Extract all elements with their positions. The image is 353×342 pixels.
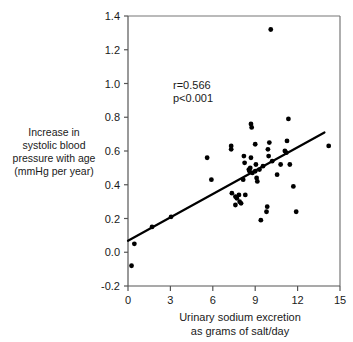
x-axis-title-line-2: as grams of salt/day xyxy=(150,324,330,338)
y-tick-label: 1.2 xyxy=(105,44,120,56)
data-point xyxy=(253,142,258,147)
data-points xyxy=(129,27,331,268)
x-axis-tick-labels: 03691215 xyxy=(125,294,346,306)
data-point xyxy=(229,191,234,196)
data-point xyxy=(257,167,262,172)
data-point xyxy=(253,169,258,174)
data-point xyxy=(255,179,260,184)
data-point xyxy=(243,192,248,197)
y-axis-title-line-1: Increase in xyxy=(2,126,106,139)
data-point xyxy=(265,204,270,209)
data-point xyxy=(233,203,238,208)
x-tick-label: 3 xyxy=(167,294,173,306)
data-point xyxy=(248,165,253,170)
data-point xyxy=(150,225,155,230)
y-axis-title-line-4: (mmHg per year) xyxy=(2,165,106,178)
x-tick-label: 15 xyxy=(334,294,346,306)
x-axis-title-line-1: Urinary sodium excretion xyxy=(150,310,330,324)
x-tick-label: 12 xyxy=(291,294,303,306)
data-point xyxy=(205,155,210,160)
y-tick-label: 0.4 xyxy=(105,179,120,191)
x-tick-label: 6 xyxy=(210,294,216,306)
correlation-annotation: r=0.566 xyxy=(173,79,211,91)
data-point xyxy=(254,162,259,167)
data-point xyxy=(242,160,247,165)
y-tick-label: 0.8 xyxy=(105,111,120,123)
data-point xyxy=(287,162,292,167)
data-point xyxy=(291,184,296,189)
pvalue-annotation: p<0.001 xyxy=(173,92,213,104)
data-point xyxy=(264,209,269,214)
data-point xyxy=(285,138,290,143)
data-point xyxy=(241,177,246,182)
x-axis-title: Urinary sodium excretion as grams of sal… xyxy=(150,310,330,338)
data-point xyxy=(169,214,174,219)
y-tick-label: 0.2 xyxy=(105,213,120,225)
data-point xyxy=(268,27,273,32)
y-axis-title-line-3: pressure with age xyxy=(2,152,106,165)
data-point xyxy=(132,241,137,246)
data-point xyxy=(266,154,271,159)
data-point xyxy=(129,263,134,268)
data-point xyxy=(278,162,283,167)
data-point xyxy=(266,147,271,152)
x-axis-ticks xyxy=(128,286,340,291)
data-point xyxy=(229,147,234,152)
data-point xyxy=(326,144,331,149)
data-point xyxy=(249,155,254,160)
data-point xyxy=(286,117,291,122)
y-axis-title-line-2: systolic blood xyxy=(2,139,106,152)
data-point xyxy=(261,164,266,169)
data-point xyxy=(258,218,263,223)
data-point xyxy=(270,159,275,164)
data-point xyxy=(249,125,254,130)
y-axis-title: Increase in systolic blood pressure with… xyxy=(2,126,106,178)
y-tick-label: 1.0 xyxy=(105,78,120,90)
scatter-plot-figure: -0.20.00.20.40.60.81.01.21.4 03691215 r=… xyxy=(0,0,353,342)
y-tick-label: -0.2 xyxy=(101,280,120,292)
data-point xyxy=(241,154,246,159)
data-point xyxy=(239,201,244,206)
y-tick-label: 0.0 xyxy=(105,246,120,258)
data-point xyxy=(209,177,214,182)
y-tick-label: 0.6 xyxy=(105,145,120,157)
x-tick-label: 0 xyxy=(125,294,131,306)
data-point xyxy=(237,192,242,197)
plot-frame xyxy=(128,16,340,286)
data-point xyxy=(275,172,280,177)
data-point xyxy=(284,150,289,155)
x-tick-label: 9 xyxy=(252,294,258,306)
data-point xyxy=(294,209,299,214)
data-point xyxy=(267,140,272,145)
y-tick-label: 1.4 xyxy=(105,10,120,22)
